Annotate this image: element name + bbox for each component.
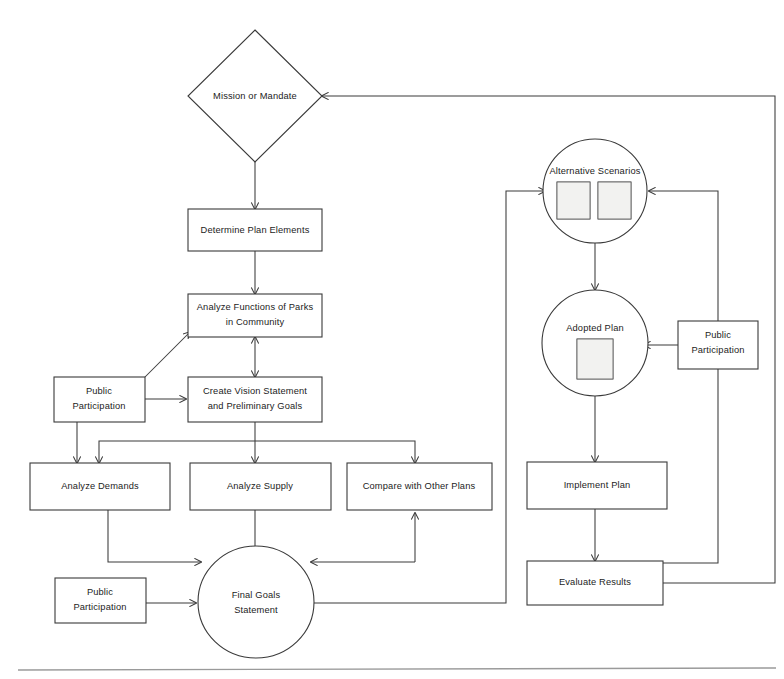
- analyze-demands-label: Analyze Demands: [61, 481, 139, 491]
- pp-bottom-rect-shape: [55, 578, 146, 623]
- page-bottom-rule: [18, 668, 776, 670]
- scenario-plan-thumbnail-icon: [557, 182, 590, 219]
- alternative-scenarios-label: Alternative Scenarios: [550, 166, 641, 176]
- analyze-functions-label-line1: Analyze Functions of Parks: [197, 302, 314, 312]
- node-create-vision-statement[interactable]: Create Vision Statement and Preliminary …: [188, 377, 322, 422]
- node-analyze-supply[interactable]: Analyze Supply: [190, 463, 331, 510]
- pp-left-label-line1: Public: [86, 386, 112, 396]
- create-vision-label-line1: Create Vision Statement: [203, 386, 307, 396]
- pp-right-label-line2: Participation: [691, 345, 744, 355]
- node-determine-plan-elements[interactable]: Determine Plan Elements: [188, 209, 322, 251]
- analyze-functions-rect-shape: [188, 294, 322, 337]
- node-adopted-plan[interactable]: Adopted Plan: [542, 290, 648, 396]
- final-goals-label-line1: Final Goals: [232, 590, 281, 600]
- node-public-participation-left[interactable]: Public Participation: [54, 377, 145, 422]
- mission-label: Mission or Mandate: [213, 91, 297, 101]
- adopted-plan-label: Adopted Plan: [566, 323, 624, 333]
- scenario-plan-thumbnail-icon-2: [598, 182, 631, 219]
- node-alternative-scenarios[interactable]: Alternative Scenarios: [543, 139, 647, 243]
- flowchart-canvas: Mission or Mandate Determine Plan Elemen…: [0, 0, 784, 679]
- node-compare-with-other-plans[interactable]: Compare with Other Plans: [347, 463, 492, 510]
- node-evaluate-results[interactable]: Evaluate Results: [527, 561, 663, 605]
- node-analyze-functions-of-parks[interactable]: Analyze Functions of Parks in Community: [188, 294, 322, 337]
- pp-left-label-line2: Participation: [72, 401, 125, 411]
- node-public-participation-bottom[interactable]: Public Participation: [55, 578, 146, 623]
- pp-bottom-label-line2: Participation: [73, 602, 126, 612]
- node-mission-or-mandate[interactable]: Mission or Mandate: [188, 30, 322, 162]
- create-vision-rect-shape: [188, 377, 322, 422]
- implement-plan-label: Implement Plan: [564, 480, 631, 490]
- pp-bottom-label-line1: Public: [87, 587, 113, 597]
- final-goals-ellipse-shape: [198, 546, 314, 658]
- edge-create-vision-to-compare-plans: [255, 441, 415, 463]
- pp-right-label-line1: Public: [705, 330, 731, 340]
- edge-analyze-demands-to-final-goals: [108, 510, 201, 562]
- pp-left-rect-shape: [54, 377, 145, 422]
- node-final-goals-statement[interactable]: Final Goals Statement: [198, 546, 314, 658]
- node-analyze-demands[interactable]: Analyze Demands: [30, 463, 170, 510]
- edge-final-goals-to-alternative-scenarios: [314, 191, 545, 603]
- flowchart-svg: Mission or Mandate Determine Plan Elemen…: [0, 0, 784, 679]
- node-public-participation-right[interactable]: Public Participation: [678, 321, 758, 369]
- determine-label: Determine Plan Elements: [201, 225, 310, 235]
- edge-pp-left-to-analyze-functions: [145, 332, 190, 377]
- create-vision-label-line2: and Preliminary Goals: [208, 401, 303, 411]
- edge-create-vision-to-analyze-demands: [99, 441, 255, 463]
- evaluate-results-label: Evaluate Results: [559, 577, 631, 587]
- analyze-supply-label: Analyze Supply: [227, 481, 293, 491]
- analyze-functions-label-line2: in Community: [226, 317, 285, 327]
- compare-plans-label: Compare with Other Plans: [363, 481, 476, 491]
- final-goals-label-line2: Statement: [234, 605, 278, 615]
- adopted-plan-thumbnail-icon: [577, 339, 613, 379]
- node-implement-plan[interactable]: Implement Plan: [527, 462, 667, 509]
